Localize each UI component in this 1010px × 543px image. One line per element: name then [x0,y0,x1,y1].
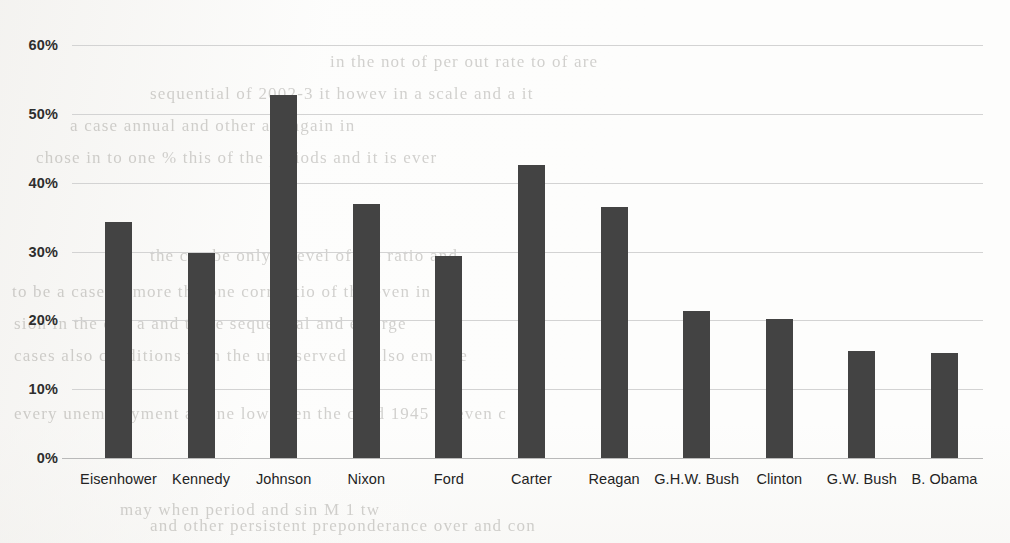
y-axis-tick-label: 50% [0,106,58,122]
bar [353,204,380,458]
y-axis-tick-label: 60% [0,37,58,53]
y-axis-tick-label: 40% [0,175,58,191]
y-axis-tick-label: 0% [0,450,58,466]
bar [188,253,215,458]
x-axis-tick-label: Carter [486,470,578,489]
x-axis-tick-label: Clinton [733,470,825,489]
bar [848,351,875,458]
gridline [72,114,983,115]
y-axis-tick-label: 20% [0,312,58,328]
bar [766,319,793,458]
y-axis-tick-label: 30% [0,244,58,260]
x-axis-tick-label: Kennedy [155,470,247,489]
x-axis-tick-label: G.W. Bush [816,470,908,489]
gridline [72,45,983,46]
bar [105,222,132,458]
scanned-page-background: in the not of per out rate to of are seq… [0,0,1010,543]
bar [270,95,297,458]
x-axis-tick-label: G.H.W. Bush [651,470,743,489]
bar-chart: 0%10%20%30%40%50%60%EisenhowerKennedyJoh… [0,0,1010,543]
x-axis-tick-label: Reagan [568,470,660,489]
bar [931,353,958,458]
bar [683,311,710,458]
x-axis-tick-label: Nixon [320,470,412,489]
axis-baseline [62,458,983,459]
bar [518,165,545,458]
chart-plot-area: 0%10%20%30%40%50%60%EisenhowerKennedyJoh… [0,0,1010,543]
y-axis-tick-label: 10% [0,381,58,397]
x-axis-tick-label: Ford [403,470,495,489]
bar [601,207,628,458]
x-axis-tick-label: Eisenhower [73,470,165,489]
x-axis-tick-label: B. Obama [899,470,991,489]
bar [435,256,462,458]
x-axis-tick-label: Johnson [238,470,330,489]
